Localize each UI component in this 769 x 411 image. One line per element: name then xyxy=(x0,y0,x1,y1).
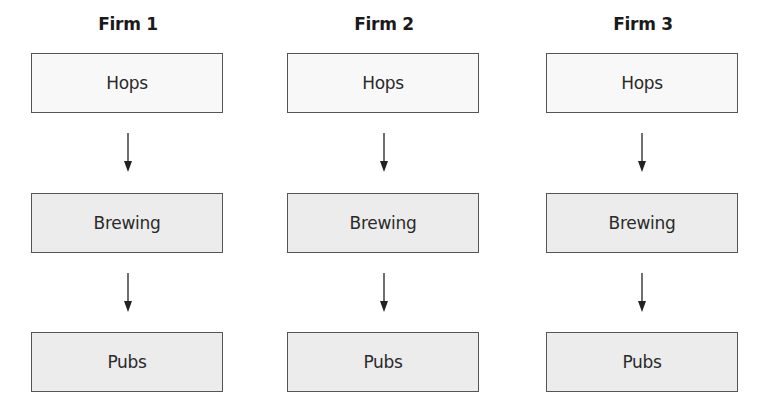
firm-3-hops-box: Hops xyxy=(546,53,738,113)
firm-2-title: Firm 2 xyxy=(287,14,481,34)
firm-1-brewing-box: Brewing xyxy=(31,193,223,253)
firm-1-title: Firm 1 xyxy=(31,14,225,34)
firm-2-hops-box: Hops xyxy=(287,53,479,113)
arrow-down-icon xyxy=(378,273,390,313)
firm-3-title: Firm 3 xyxy=(546,14,740,34)
arrow-down-icon xyxy=(378,133,390,173)
firm-1-pubs-box: Pubs xyxy=(31,332,223,392)
firm-3-brewing-box: Brewing xyxy=(546,193,738,253)
firm-1-hops-box: Hops xyxy=(31,53,223,113)
arrow-down-icon xyxy=(636,133,648,173)
firm-3-pubs-box: Pubs xyxy=(546,332,738,392)
firm-2-brewing-box: Brewing xyxy=(287,193,479,253)
arrow-down-icon xyxy=(122,133,134,173)
firm-2-pubs-box: Pubs xyxy=(287,332,479,392)
arrow-down-icon xyxy=(636,273,648,313)
arrow-down-icon xyxy=(122,273,134,313)
